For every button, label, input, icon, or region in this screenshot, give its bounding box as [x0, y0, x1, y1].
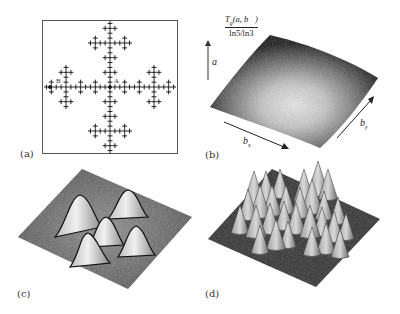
panel-d-surface [200, 157, 400, 314]
fractal-cross-image [42, 20, 178, 154]
point-label-b: B [56, 77, 61, 85]
panel-a-fractal: A B [42, 20, 178, 154]
surface-d [200, 157, 400, 314]
axis-label-bx: bx [243, 135, 251, 148]
bx-axis-arrow [200, 0, 400, 157]
axis-label-by: by [360, 117, 368, 130]
panel-label-d: (d) [205, 288, 219, 299]
panel-b-surface: Tg(a, b⃗) ln5/ln3 a bx by [200, 0, 400, 157]
panel-label-c: (c) [17, 288, 30, 299]
point-label-a: A [114, 77, 119, 85]
